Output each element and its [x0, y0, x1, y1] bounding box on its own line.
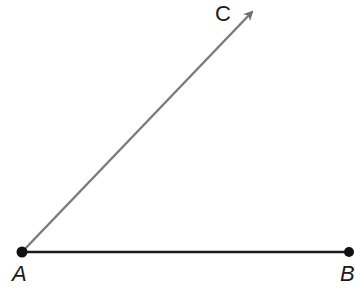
label-A: A [12, 263, 27, 285]
point-A [17, 247, 28, 258]
label-B: B [340, 263, 355, 285]
ray-AC [22, 12, 252, 252]
angle-diagram: C A B [0, 0, 356, 300]
diagram-canvas [0, 0, 356, 300]
point-B [344, 247, 354, 257]
label-C: C [215, 3, 231, 25]
